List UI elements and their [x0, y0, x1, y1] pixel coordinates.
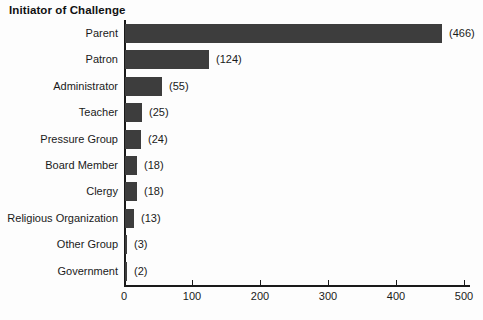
bar [125, 209, 134, 228]
value-label: (124) [216, 50, 242, 69]
category-label: Parent [0, 24, 118, 43]
x-tick-mark [328, 280, 329, 285]
category-label: Government [0, 262, 118, 281]
category-label: Board Member [0, 156, 118, 175]
value-label: (24) [148, 130, 168, 149]
x-tick-label: 300 [319, 290, 337, 302]
x-tick-mark [464, 280, 465, 285]
value-label: (3) [134, 235, 147, 254]
value-label: (2) [134, 262, 147, 281]
bar [125, 130, 141, 149]
bar [125, 24, 442, 43]
category-label: Clergy [0, 182, 118, 201]
category-label: Pressure Group [0, 130, 118, 149]
value-label: (55) [169, 77, 189, 96]
category-label: Teacher [0, 103, 118, 122]
bar [125, 262, 127, 281]
value-label: (18) [144, 182, 164, 201]
x-tick-label: 400 [387, 290, 405, 302]
category-label: Administrator [0, 77, 118, 96]
value-label: (466) [449, 24, 475, 43]
x-tick-label: 200 [251, 290, 269, 302]
x-tick-mark [396, 280, 397, 285]
x-tick-label: 100 [183, 290, 201, 302]
bar [125, 77, 162, 96]
value-label: (18) [144, 156, 164, 175]
bar [125, 235, 127, 254]
bar [125, 50, 209, 69]
bar-chart: Initiator of Challenge Parent(466)Patron… [0, 0, 483, 320]
x-tick-mark [260, 280, 261, 285]
x-tick-mark [124, 280, 125, 285]
category-label: Other Group [0, 235, 118, 254]
category-label: Patron [0, 50, 118, 69]
x-tick-label: 500 [455, 290, 473, 302]
bar [125, 156, 137, 175]
value-label: (13) [141, 209, 161, 228]
x-tick-label: 0 [121, 290, 127, 302]
bar [125, 182, 137, 201]
x-axis-line [124, 285, 470, 287]
plot-area: Parent(466)Patron(124)Administrator(55)T… [0, 0, 483, 320]
bar [125, 103, 142, 122]
x-tick-mark [192, 280, 193, 285]
value-label: (25) [149, 103, 169, 122]
category-label: Religious Organization [0, 209, 118, 228]
